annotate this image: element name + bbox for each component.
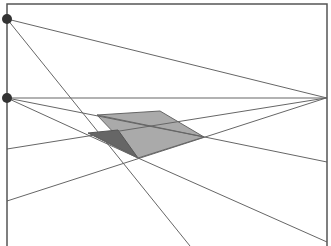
perspective-diagram: [0, 0, 331, 246]
construction-line: [7, 19, 327, 98]
construction-line: [138, 158, 327, 242]
construction-line: [7, 98, 326, 201]
vp-left-horizon-dot: [2, 93, 12, 103]
vp-top-left-dot: [2, 14, 12, 24]
